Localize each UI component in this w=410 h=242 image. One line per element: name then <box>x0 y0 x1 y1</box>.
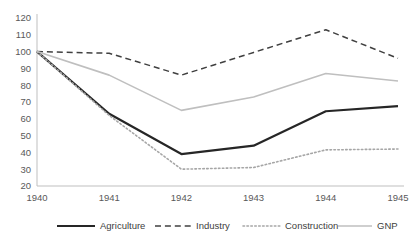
y-axis-tick-label: 120 <box>15 12 31 23</box>
y-axis-tick-label: 30 <box>20 164 31 175</box>
series-line-agriculture <box>37 52 398 154</box>
y-axis-tick-label: 100 <box>15 46 31 57</box>
y-axis-tick-label: 70 <box>20 96 31 107</box>
y-axis-tick-label: 20 <box>20 180 31 191</box>
x-axis-tick-label: 1944 <box>315 192 336 203</box>
x-axis-tick-label: 1943 <box>243 192 264 203</box>
x-axis-tick-label: 1941 <box>99 192 120 203</box>
legend-label-industry: Industry <box>196 220 230 231</box>
x-axis-tick-label: 1940 <box>26 192 47 203</box>
x-axis-tick-label: 1945 <box>387 192 408 203</box>
y-axis-tick-label: 50 <box>20 130 31 141</box>
legend-label-agriculture: Agriculture <box>100 220 145 231</box>
y-axis-tick-label: 110 <box>16 29 31 40</box>
y-axis-tick-label: 40 <box>20 147 31 158</box>
legend-label-construction: Construction <box>285 220 338 231</box>
y-axis-tick-labels: 2030405060708090100110120 <box>15 12 31 191</box>
legend-label-gnp: GNP <box>377 220 398 231</box>
series-line-gnp <box>37 52 398 111</box>
series-line-industry <box>37 30 398 75</box>
y-axis-tick-label: 60 <box>20 113 31 124</box>
series-lines <box>37 30 398 169</box>
chart-legend: AgricultureIndustryConstructionGNP <box>57 220 398 231</box>
x-axis-tick-labels: 194019411942194319441945 <box>26 192 408 203</box>
y-axis-tick-label: 90 <box>20 63 31 74</box>
chart-canvas: 2030405060708090100110120 19401941194219… <box>0 0 410 242</box>
x-axis-tick-label: 1942 <box>171 192 192 203</box>
line-chart: 2030405060708090100110120 19401941194219… <box>0 0 410 242</box>
y-axis-tick-label: 80 <box>20 80 31 91</box>
